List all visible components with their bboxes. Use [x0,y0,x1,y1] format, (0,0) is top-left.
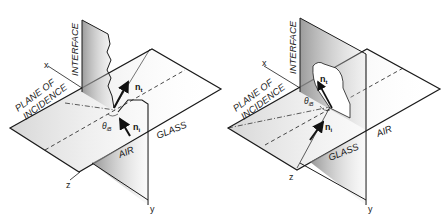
axis-x-label: x [262,58,267,68]
axis-y-label: y [368,204,373,214]
brewster-angle-diagram: INTERFACE PLANE OF INCIDENCE GLASS AIR x… [0,0,444,216]
axis-z-label: z [289,172,294,182]
axis-y-label: y [150,204,155,214]
axis-x-label: x [44,60,49,70]
interface-label: INTERFACE [287,20,298,74]
right-panel: INTERFACE PLANE OF INCIDENCE GLASS AIR x… [228,18,440,214]
axis-z-label: z [66,180,71,190]
interface-label: INTERFACE [69,22,80,76]
z-axis [70,172,80,180]
left-panel: INTERFACE PLANE OF INCIDENCE GLASS AIR x… [10,20,221,214]
